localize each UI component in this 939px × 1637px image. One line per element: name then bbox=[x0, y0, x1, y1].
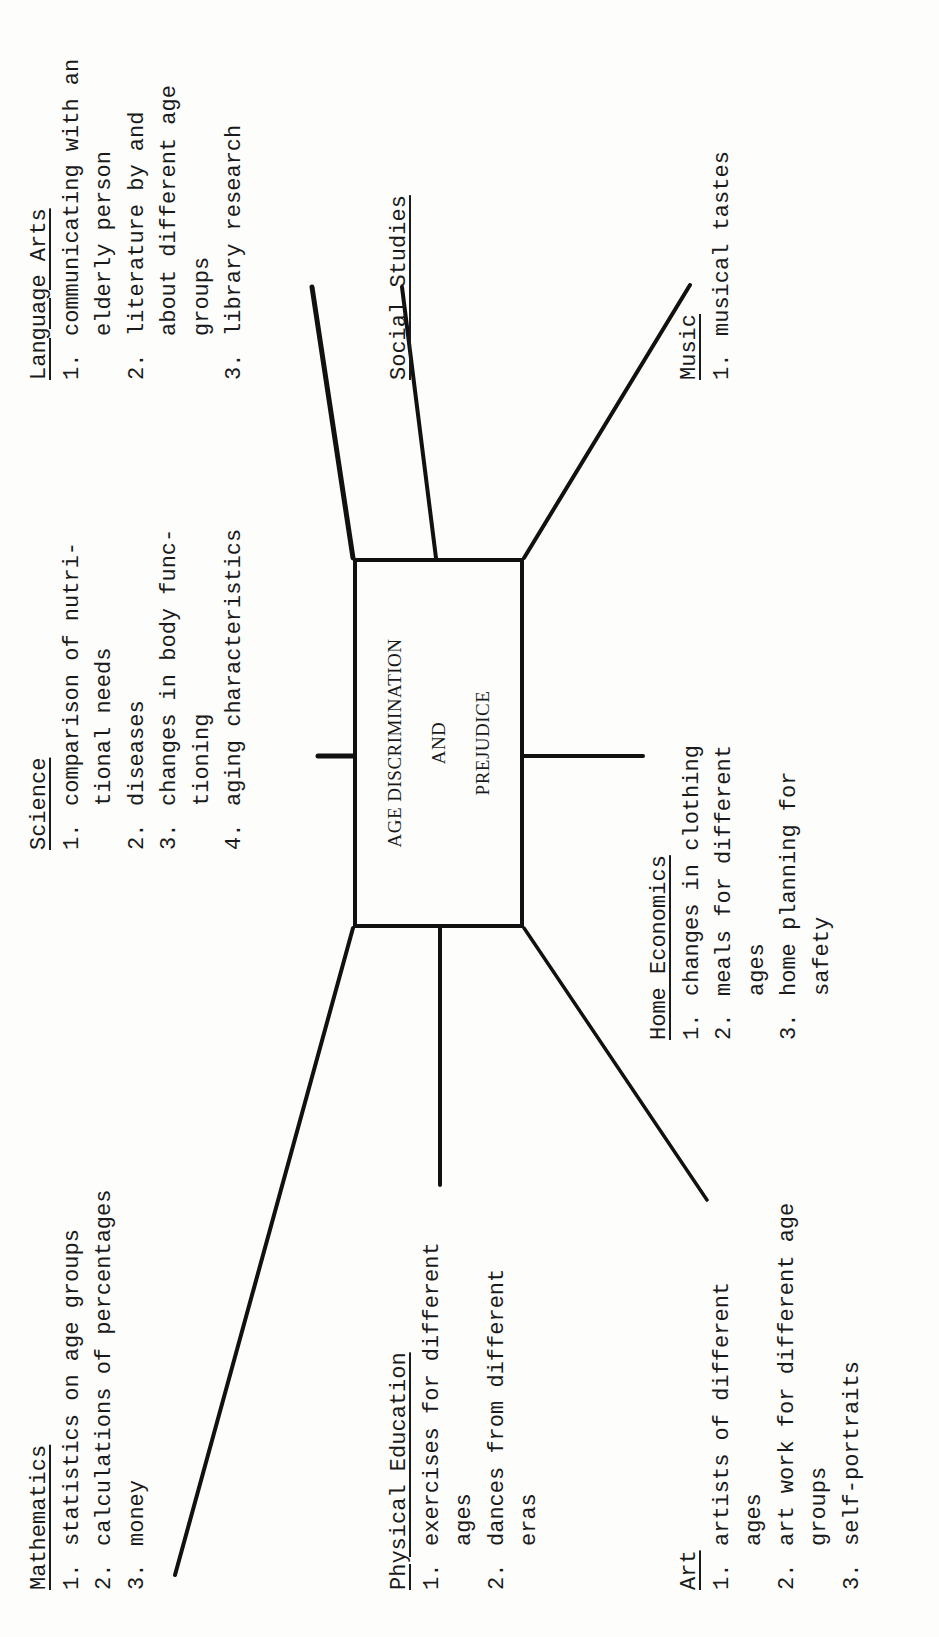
subject-mathematics: Mathematics 1.statistics on age groups 2… bbox=[24, 1190, 154, 1590]
subject-language-arts: Language Arts 1.communicating with an el… bbox=[24, 59, 252, 380]
list-item-continuation: ages bbox=[742, 745, 775, 1040]
list-item-continuation: ages bbox=[449, 1242, 482, 1590]
list-item-continuation: about different age bbox=[154, 59, 187, 380]
subject-heading: Mathematics bbox=[24, 1190, 57, 1590]
list-item: 3.money bbox=[122, 1190, 155, 1590]
list-item: 3.changes in body func- bbox=[154, 529, 187, 850]
subject-physical-education: Physical Education 1.exercises for diffe… bbox=[384, 1242, 547, 1590]
subject-heading: Art bbox=[674, 1203, 707, 1590]
list-item: 2.literature by and bbox=[122, 59, 155, 380]
central-topic-line-1: AGE DISCRIMINATION bbox=[373, 638, 417, 847]
subject-social-studies: Social Studies bbox=[384, 195, 417, 380]
list-item-continuation: groups bbox=[804, 1203, 837, 1590]
list-item-continuation: tioning bbox=[187, 529, 220, 850]
subject-science: Science 1.comparison of nutri- tional ne… bbox=[24, 529, 252, 850]
list-item: 1.comparison of nutri- bbox=[57, 529, 90, 850]
concept-web-page: AGE DISCRIMINATION AND PREJUDICE Languag… bbox=[0, 0, 939, 1637]
central-topic-box: AGE DISCRIMINATION AND PREJUDICE bbox=[353, 558, 524, 928]
list-item: 2.diseases bbox=[122, 529, 155, 850]
list-item-continuation: eras bbox=[514, 1242, 547, 1590]
list-item: 3.home planning for bbox=[774, 745, 807, 1040]
connector-language-arts bbox=[312, 287, 353, 558]
list-item: 2.dances from different bbox=[482, 1242, 515, 1590]
subject-art: Art 1.artists of different ages 2.art wo… bbox=[674, 1203, 869, 1590]
list-item-continuation: groups bbox=[187, 59, 220, 380]
subject-heading: Music bbox=[674, 151, 707, 380]
list-item: 1.musical tastes bbox=[707, 151, 740, 380]
subject-heading: Physical Education bbox=[384, 1242, 417, 1590]
central-topic-line-2: AND bbox=[417, 722, 461, 765]
list-item-continuation: ages bbox=[739, 1203, 772, 1590]
list-item-continuation: elderly person bbox=[89, 59, 122, 380]
list-item: 3.self-portraits bbox=[837, 1203, 870, 1590]
list-item: 2.meals for different bbox=[709, 745, 742, 1040]
list-item-continuation: tional needs bbox=[89, 529, 122, 850]
subject-heading: Language Arts bbox=[24, 59, 57, 380]
connector-music bbox=[524, 285, 690, 558]
central-topic-line-3: PREJUDICE bbox=[461, 691, 505, 796]
subject-heading: Social Studies bbox=[384, 195, 417, 380]
subject-home-economics: Home Economics 1.changes in clothing 2.m… bbox=[644, 745, 839, 1040]
list-item: 3.library research bbox=[219, 59, 252, 380]
list-item: 1.changes in clothing bbox=[677, 745, 710, 1040]
list-item: 1.statistics on age groups bbox=[57, 1190, 90, 1590]
subject-heading: Home Economics bbox=[644, 745, 677, 1040]
list-item: 1.artists of different bbox=[707, 1203, 740, 1590]
list-item: 4.aging characteristics bbox=[219, 529, 252, 850]
list-item: 1.communicating with an bbox=[57, 59, 90, 380]
list-item: 1.exercises for different bbox=[417, 1242, 450, 1590]
list-item: 2.art work for different age bbox=[772, 1203, 805, 1590]
subject-music: Music 1.musical tastes bbox=[674, 151, 739, 380]
connector-mathematics bbox=[175, 928, 353, 1575]
list-item: 2.calculations of percentages bbox=[89, 1190, 122, 1590]
list-item-continuation: safety bbox=[807, 745, 840, 1040]
subject-heading: Science bbox=[24, 529, 57, 850]
